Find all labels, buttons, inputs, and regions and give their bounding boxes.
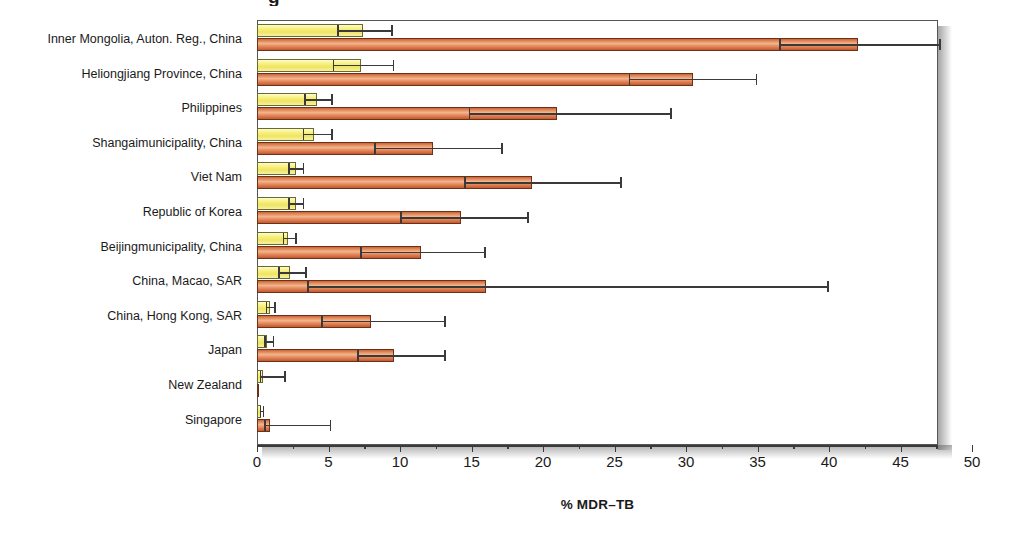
error-bar-previously-treated-cases (307, 281, 829, 292)
error-bar-previously-treated-cases (629, 74, 758, 85)
error-bar-previously-treated-cases (357, 350, 446, 361)
category-label: Shangaimunicipality, China (0, 136, 250, 150)
x-tick (972, 445, 973, 452)
category-label: Philippines (0, 101, 250, 115)
x-axis-title: % MDR–TB (257, 497, 938, 512)
error-bar-cap-lower (303, 129, 305, 140)
error-bar-cap-upper (527, 212, 529, 223)
error-bar-cap-upper (303, 163, 305, 174)
category-label: China, Hong Kong, SAR (0, 309, 250, 323)
category-label: Singapore (0, 413, 250, 427)
error-bar-new-cases (337, 25, 393, 36)
plot-shadow-right (938, 26, 952, 450)
error-bar-cap-lower (400, 212, 402, 223)
bar-previously-treated-cases (257, 38, 858, 51)
error-bar-cap-lower (779, 39, 781, 50)
error-bar-cap-lower (278, 267, 280, 278)
error-bar-line (307, 286, 829, 288)
category-label: Beijingmunicipality, China (0, 240, 250, 254)
error-bar-previously-treated-cases (321, 316, 445, 327)
x-tick-label: 30 (666, 453, 706, 470)
error-bar-cap-lower (264, 336, 266, 347)
x-tick-label: 15 (452, 453, 492, 470)
error-bar-cap-upper (484, 247, 486, 258)
error-bar-line (400, 217, 529, 219)
error-bar-new-cases (260, 371, 286, 382)
error-bar-cap-lower (321, 316, 323, 327)
error-bar-cap-lower (266, 302, 268, 313)
error-bar-cap-upper (263, 406, 265, 417)
error-bar-cap-upper (303, 198, 305, 209)
error-bar-cap-lower (304, 94, 306, 105)
error-bar-new-cases (266, 302, 276, 313)
error-bar-cap-lower (464, 177, 466, 188)
error-bar-previously-treated-cases (374, 143, 503, 154)
error-bar-line (264, 425, 331, 427)
error-bar-new-cases (278, 267, 307, 278)
error-bar-cap-upper (305, 267, 307, 278)
error-bar-previously-treated-cases (469, 108, 672, 119)
error-bar-cap-upper (501, 143, 503, 154)
error-bar-previously-treated-cases (779, 39, 941, 50)
x-tick-label: 0 (237, 453, 277, 470)
error-bar-previously-treated-cases (264, 420, 331, 431)
error-bar-cap-lower (260, 371, 262, 382)
error-bar-new-cases (260, 406, 264, 417)
error-bar-cap-lower (264, 420, 266, 431)
category-label: Japan (0, 343, 250, 357)
category-label: Heliongjiang Province, China (0, 67, 250, 81)
error-bar-cap-upper (295, 233, 297, 244)
error-bar-cap-upper (274, 302, 276, 313)
error-bar-cap-upper (331, 129, 333, 140)
error-bar-cap-lower (288, 198, 290, 209)
x-tick-label: 10 (380, 453, 420, 470)
error-bar-cap-lower (629, 74, 631, 85)
error-bar-cap-upper (670, 108, 672, 119)
error-bar-cap-lower (357, 350, 359, 361)
error-bar-cap-upper (620, 177, 622, 188)
error-bar-line (304, 99, 333, 101)
error-bar-line (464, 182, 621, 184)
error-bar-cap-lower (283, 233, 285, 244)
error-bar-cap-lower (337, 25, 339, 36)
error-bar-cap-upper (393, 60, 395, 71)
chart-figure: g Inner Mongolia, Auton. Reg., ChinaHeli… (0, 0, 1018, 539)
error-bar-previously-treated-cases (400, 212, 529, 223)
x-tick-label: 40 (809, 453, 849, 470)
error-bar-cap-upper (756, 74, 758, 85)
x-tick-label: 5 (309, 453, 349, 470)
category-label: New Zealand (0, 378, 250, 392)
x-tick-label: 50 (952, 453, 992, 470)
error-bar-line (303, 134, 333, 136)
error-bar-cap-upper (273, 336, 275, 347)
category-label: China, Macao, SAR (0, 274, 250, 288)
error-bar-line (260, 376, 286, 378)
category-label: Viet Nam (0, 170, 250, 184)
category-label: Inner Mongolia, Auton. Reg., China (0, 32, 250, 46)
x-axis-line (257, 445, 938, 447)
error-bar-line (629, 79, 758, 81)
error-bar-cap-lower (469, 108, 471, 119)
error-bar-line (333, 65, 394, 67)
error-bar-previously-treated-cases (360, 247, 486, 258)
error-bar-cap-lower (260, 406, 262, 417)
error-bar-line (360, 252, 486, 254)
error-bar-cap-upper (939, 39, 941, 50)
error-bar-cap-upper (444, 316, 446, 327)
error-bar-new-cases (304, 94, 333, 105)
error-bar-cap-upper (444, 350, 446, 361)
error-bar-new-cases (288, 198, 304, 209)
error-bar-cap-lower (307, 281, 309, 292)
x-tick-label: 20 (523, 453, 563, 470)
category-label: Republic of Korea (0, 205, 250, 219)
error-bar-cap-upper (330, 420, 332, 431)
error-bar-cap-lower (374, 143, 376, 154)
error-bar-cap-lower (360, 247, 362, 258)
error-bar-cap-lower (333, 60, 335, 71)
x-tick-label: 35 (738, 453, 778, 470)
error-bar-new-cases (333, 60, 394, 71)
error-bar-cap-upper (391, 25, 393, 36)
bar-previously-treated-cases (257, 384, 259, 397)
error-bar-cap-lower (288, 163, 290, 174)
figure-title-partial: g (268, 0, 688, 6)
